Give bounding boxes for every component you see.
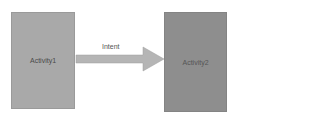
activity2-label: Activity2 xyxy=(182,59,208,66)
intent-label: Intent xyxy=(102,43,120,50)
activity2-box: Activity2 xyxy=(164,12,227,112)
